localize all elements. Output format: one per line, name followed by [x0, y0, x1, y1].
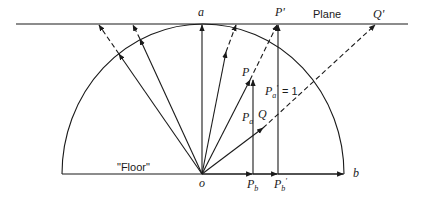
- label-floor: "Floor": [117, 162, 150, 173]
- label-pa: Pa: [242, 111, 253, 126]
- left-dashed-1: [99, 25, 119, 54]
- unit-semicircle: [62, 24, 344, 174]
- label-pb-prime: Pb': [274, 178, 287, 193]
- dashed-q-to-q-prime: [263, 25, 375, 128]
- label-b: b: [353, 167, 359, 179]
- right-vector-1: [202, 52, 226, 174]
- label-a: a: [198, 6, 204, 18]
- label-q-prime: Q': [373, 8, 384, 20]
- vector-oq: [202, 128, 263, 174]
- vector-op: [202, 80, 250, 174]
- dashed-p-to-p-prime: [250, 25, 277, 80]
- label-p-prime: P': [275, 6, 285, 18]
- right-dashed-1: [226, 25, 236, 52]
- label-o: o: [199, 177, 205, 189]
- left-dashed-2: [133, 25, 140, 39]
- label-plane: Plane: [313, 9, 341, 20]
- label-pa-prime-eq: = 1: [282, 86, 298, 97]
- label-q: Q: [258, 108, 267, 120]
- label-p: P: [242, 66, 249, 78]
- label-pb: Pb: [247, 178, 258, 193]
- left-vector-1: [119, 54, 202, 174]
- label-pa-prime: Pa': [265, 85, 278, 100]
- left-vector-2: [140, 39, 202, 174]
